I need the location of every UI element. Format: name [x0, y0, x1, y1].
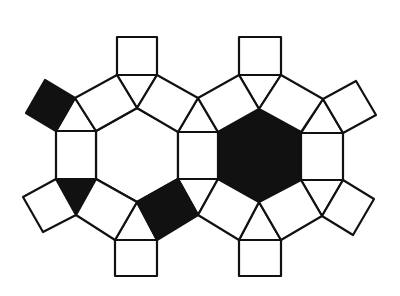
square-top-right: [239, 37, 281, 75]
square-bottom-left: [115, 240, 157, 276]
square-bottom-right: [239, 240, 281, 276]
tessellation-diagram: [0, 0, 400, 296]
square-left: [56, 131, 96, 179]
square-middle: [178, 132, 218, 179]
square-top-left: [117, 37, 157, 75]
square-right: [301, 133, 343, 180]
